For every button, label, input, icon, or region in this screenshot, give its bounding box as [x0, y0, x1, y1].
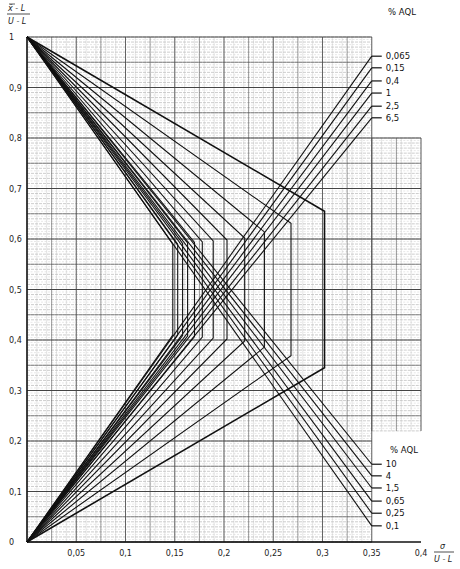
y-tick-label: 0,2	[9, 437, 22, 446]
y-tick-label: 0	[9, 538, 14, 547]
lower-legend-label: 1,5	[386, 483, 400, 493]
lower-legend-label: 4	[386, 471, 391, 481]
y-tick-label: 0,4	[9, 336, 22, 345]
y-label-denominator: U - L	[8, 17, 26, 26]
y-tick-label: 1	[9, 33, 14, 42]
x-tick-label: 0,3	[316, 549, 329, 558]
y-label-numerator: x̄ - L	[7, 4, 25, 13]
y-tick-label: 0,8	[9, 134, 22, 143]
x-tick-label: 0,1	[119, 549, 132, 558]
upper-legend-label: 2,5	[386, 101, 400, 111]
x-axis-label: σ U - L	[434, 542, 454, 564]
lower-legend-label: 0,25	[386, 508, 405, 518]
y-tick-label: 0,3	[9, 387, 22, 396]
x-label-denominator: U - L	[434, 555, 452, 564]
y-tick-label: 0,6	[9, 235, 22, 244]
x-tick-label: 0,35	[363, 549, 381, 558]
upper-legend-label: 1	[386, 88, 391, 98]
lower-legend-label: 10	[386, 459, 397, 469]
x-tick-label: 0,15	[166, 549, 184, 558]
upper-legend-label: 0,15	[386, 63, 405, 73]
x-tick-label: 0,2	[218, 549, 231, 558]
x-tick-label: 0,4	[415, 549, 428, 558]
x-tick-label: 0,05	[67, 549, 85, 558]
y-axis-label: x̄ - L U - L	[7, 4, 30, 26]
upper-legend-label: 0,4	[386, 76, 400, 86]
x-label-numerator: σ	[440, 542, 446, 551]
upper-legend-title: % AQL	[388, 7, 416, 17]
x-tick-label: 0,25	[264, 549, 282, 558]
upper-legend-label: 0,065	[386, 51, 410, 61]
upper-legend-label: 6,5	[386, 113, 400, 123]
y-tick-label: 0,7	[9, 185, 22, 194]
lower-legend-label: 0,65	[386, 496, 405, 506]
y-tick-label: 0,9	[9, 84, 22, 93]
lower-legend-label: 0,1	[386, 521, 400, 531]
y-tick-label: 0,5	[9, 286, 22, 295]
y-tick-label: 0,1	[9, 488, 22, 497]
legend-labels: 0,0650,150,412,56,51041,50,650,250,1	[386, 51, 410, 531]
lower-legend-title: % AQL	[390, 445, 418, 455]
aql-acceptance-chart: 0,050,10,150,20,250,30,350,400,10,20,30,…	[0, 0, 460, 569]
